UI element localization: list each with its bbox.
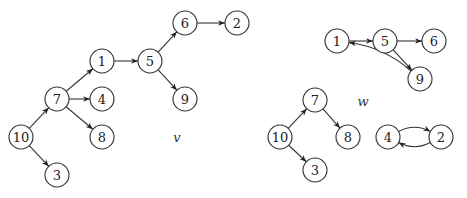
node-v-9: 9 xyxy=(173,87,197,111)
node-label: 5 xyxy=(146,54,154,69)
edge-v-5-to-6 xyxy=(158,32,177,52)
node-w-1: 1 xyxy=(325,29,349,53)
node-label: 5 xyxy=(381,34,389,49)
node-label: 1 xyxy=(333,34,341,49)
node-label: 2 xyxy=(233,16,241,31)
edges-layer xyxy=(29,23,430,166)
node-label: 10 xyxy=(13,130,30,145)
node-v-3: 3 xyxy=(45,163,69,187)
node-w-7: 7 xyxy=(303,88,327,112)
node-v-1: 1 xyxy=(90,49,114,73)
edge-v-7-to-1 xyxy=(66,69,93,92)
node-label: 4 xyxy=(384,130,392,145)
node-v-8: 8 xyxy=(90,125,114,149)
node-label: 3 xyxy=(311,163,319,178)
graph-label-w: w xyxy=(357,94,368,109)
node-w-3: 3 xyxy=(303,158,327,182)
node-w-9: 9 xyxy=(408,67,432,91)
edge-w-7-to-8 xyxy=(323,109,340,128)
node-label: 9 xyxy=(181,92,189,107)
node-label: 9 xyxy=(416,72,424,87)
node-w-8: 8 xyxy=(336,125,360,149)
edge-w-4-to-2 xyxy=(399,127,431,131)
node-w-6: 6 xyxy=(422,29,446,53)
edge-v-10-to-7 xyxy=(29,108,48,129)
node-label: 7 xyxy=(311,93,319,108)
edge-w-2-to-4 xyxy=(399,143,431,147)
edge-v-7-to-8 xyxy=(66,107,93,130)
node-v-4: 4 xyxy=(90,87,114,111)
node-label: 8 xyxy=(344,130,352,145)
node-label: 8 xyxy=(98,130,106,145)
graph-diagram: 1071483562915697108342 vw xyxy=(0,0,467,198)
node-label: 4 xyxy=(98,92,106,107)
graph-label-v: v xyxy=(173,130,181,145)
node-v-5: 5 xyxy=(138,49,162,73)
node-label: 1 xyxy=(98,54,106,69)
node-v-6: 6 xyxy=(173,11,197,35)
node-w-10: 10 xyxy=(268,125,292,149)
node-label: 10 xyxy=(272,130,289,145)
node-v-7: 7 xyxy=(45,87,69,111)
node-v-2: 2 xyxy=(225,11,249,35)
edge-w-10-to-3 xyxy=(289,145,307,162)
edge-v-5-to-9 xyxy=(158,70,177,90)
node-w-4: 4 xyxy=(376,125,400,149)
node-v-10: 10 xyxy=(9,125,33,149)
node-w-2: 2 xyxy=(429,125,453,149)
node-label: 7 xyxy=(53,92,61,107)
node-w-5: 5 xyxy=(373,29,397,53)
node-label: 6 xyxy=(430,34,438,49)
edge-w-10-to-7 xyxy=(288,109,307,129)
edge-v-10-to-3 xyxy=(29,146,48,167)
node-label: 6 xyxy=(181,16,189,31)
node-label: 3 xyxy=(53,168,61,183)
node-label: 2 xyxy=(437,130,445,145)
